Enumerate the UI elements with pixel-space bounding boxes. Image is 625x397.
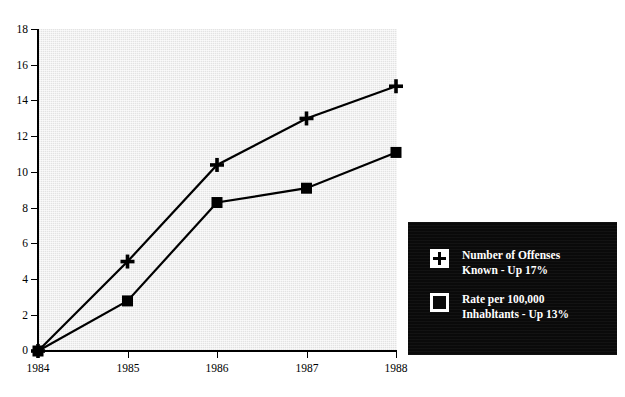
- series-line-offenses-known: [38, 86, 396, 351]
- series-markers-rate-per-100k: [33, 147, 402, 357]
- data-point-marker: [391, 147, 402, 158]
- legend-entry-offenses-known: Number of Offenses Known - Up 17%: [430, 248, 560, 278]
- plus-icon: [430, 249, 449, 268]
- data-point-marker: [212, 197, 223, 208]
- legend-entry-label: Number of Offenses Known - Up 17%: [462, 248, 560, 278]
- legend-entry-label: Rate per 100,000 Inhabltants - Up 13%: [462, 292, 569, 322]
- series-markers-offenses-known: [31, 79, 403, 358]
- line-chart: 18 16 14 12 10 8 6 4 2 0 1984 1985 1986 …: [0, 0, 625, 397]
- data-point-marker: [389, 79, 403, 93]
- data-point-marker: [300, 111, 314, 125]
- legend-label-line1: Rate per 100,000: [462, 293, 545, 305]
- legend-label-line2: Inhabltants - Up 13%: [462, 308, 569, 320]
- series-line-rate-per-100k: [38, 152, 396, 351]
- legend-label-line2: Known - Up 17%: [462, 264, 548, 276]
- data-point-marker: [33, 346, 44, 357]
- data-point-marker: [122, 295, 133, 306]
- legend-entry-rate-per-100k: Rate per 100,000 Inhabltants - Up 13%: [430, 292, 569, 322]
- chart-legend: Number of Offenses Known - Up 17% Rate p…: [408, 222, 617, 355]
- data-point-marker: [301, 183, 312, 194]
- open-square-icon: [430, 293, 449, 312]
- legend-label-line1: Number of Offenses: [462, 249, 560, 261]
